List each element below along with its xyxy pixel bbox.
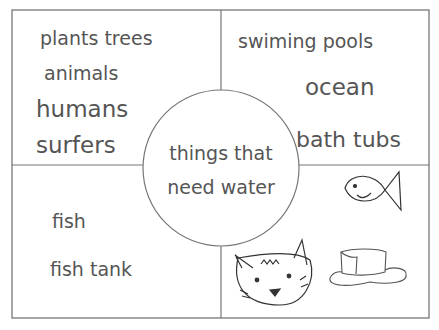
center-circle bbox=[143, 90, 299, 246]
tl-item: surfers bbox=[36, 132, 116, 158]
bl-item: fish tank bbox=[50, 258, 132, 280]
center-label-line1: things that bbox=[169, 142, 272, 164]
center-label-line2: need water bbox=[167, 176, 275, 198]
melting-ice-cube-drawing bbox=[330, 249, 406, 285]
tl-item: plants trees bbox=[40, 27, 153, 49]
bl-item: fish bbox=[52, 210, 86, 232]
tr-item: swiming pools bbox=[238, 30, 373, 52]
tl-item: humans bbox=[36, 96, 128, 122]
graphic-organizer: things that need water plants trees anim… bbox=[0, 0, 439, 330]
tr-item: ocean bbox=[305, 74, 375, 100]
tl-item: animals bbox=[44, 62, 118, 84]
tr-item: bath tubs bbox=[296, 127, 401, 152]
cat-drawing bbox=[235, 240, 312, 305]
fish-drawing bbox=[345, 172, 401, 210]
